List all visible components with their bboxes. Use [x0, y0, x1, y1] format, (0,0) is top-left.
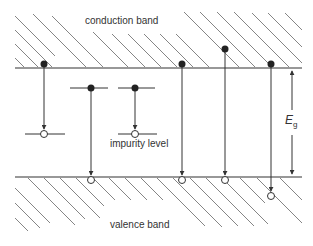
hole-icon	[41, 131, 48, 138]
band-diagram-graphic	[0, 0, 313, 246]
hole-icon	[179, 177, 186, 184]
hole-icon	[88, 177, 95, 184]
electron-icon	[179, 61, 186, 68]
hole-icon	[132, 131, 139, 138]
electron-icon	[132, 85, 139, 92]
band-gap-symbol: E	[285, 113, 293, 127]
electron-icon	[268, 61, 275, 68]
electron-icon	[88, 85, 95, 92]
band-diagram: conduction band impurity level valence b…	[0, 0, 313, 246]
hole-icon	[222, 177, 229, 184]
valence-band-label: valence band	[108, 219, 172, 230]
hole-icon	[268, 193, 275, 200]
transition-arrows	[44, 51, 271, 191]
conduction-band-label: conduction band	[83, 15, 160, 26]
electron-icon	[41, 61, 48, 68]
impurity-level-label: impurity level	[108, 138, 170, 149]
electron-icon	[222, 46, 229, 53]
band-gap-subscript: g	[293, 120, 297, 129]
band-gap-label: Eg	[285, 113, 297, 129]
